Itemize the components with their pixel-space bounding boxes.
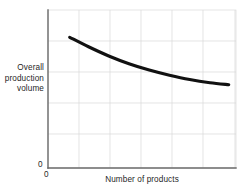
y-axis-label-line-1: Overall xyxy=(0,63,44,74)
chart-plot-area xyxy=(0,0,246,191)
y-axis-label: Overall production volume xyxy=(0,63,44,95)
y-axis-label-line-3: volume xyxy=(0,84,44,95)
x-axis-label: Number of products xyxy=(48,175,236,185)
x-axis-origin-label: 0 xyxy=(44,170,49,179)
y-axis-label-line-2: production xyxy=(0,74,44,85)
plot-background xyxy=(48,10,236,168)
y-axis-origin-label: 0 xyxy=(38,160,43,169)
chart-container: Overall production volume Number of prod… xyxy=(0,0,246,191)
